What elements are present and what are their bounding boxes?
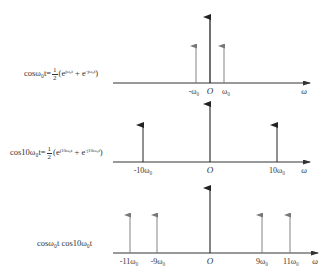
tick-label-origin: O bbox=[207, 256, 214, 266]
tick-label-neg-9w0: -9ω₀ bbox=[151, 257, 166, 266]
formula-product: cosω₀t cos10ω₀t bbox=[37, 238, 92, 248]
formula-cos-w0: cosω₀t=12(ejω₀t + e-jω₀t) bbox=[24, 67, 98, 82]
fraction-half: 12 bbox=[52, 67, 58, 82]
tick-label-origin: O bbox=[207, 165, 214, 175]
tick-label-neg-w0: -ω₀ bbox=[189, 87, 200, 96]
panel-cos-10w0 bbox=[113, 104, 310, 162]
panel-product bbox=[113, 188, 318, 253]
tick-label-pos-11w0: 11ω₀ bbox=[283, 257, 299, 266]
tick-label-pos-9w0: 9ω₀ bbox=[256, 257, 268, 266]
axis-label-omega: ω bbox=[301, 87, 307, 96]
equals-sign: = bbox=[41, 147, 46, 157]
tick-label-pos-w0: ω₀ bbox=[222, 87, 230, 96]
axis-label-omega: ω bbox=[301, 166, 307, 175]
tick-label-pos-10w0: 10ω₀ bbox=[269, 166, 285, 175]
tick-label-neg-10w0: -10ω₀ bbox=[134, 166, 153, 175]
tick-label-neg-11w0: -11ω₀ bbox=[120, 257, 138, 266]
formula-lhs: cosω₀t cos10ω₀t bbox=[37, 238, 92, 248]
formula-lhs: cos10ω₀t bbox=[10, 147, 41, 157]
panel-cos-w0 bbox=[113, 17, 310, 83]
fraction-half: 12 bbox=[47, 146, 53, 161]
spectrum-diagram bbox=[0, 0, 331, 277]
axis-label-omega: ω bbox=[312, 257, 318, 266]
equals-sign: = bbox=[46, 68, 51, 78]
tick-label-origin: O bbox=[207, 86, 214, 96]
formula-lhs: cosω₀t bbox=[24, 68, 46, 78]
formula-cos-10w0: cos10ω₀t=12(ej10ω₀t + e-j10ω₀t) bbox=[10, 146, 103, 161]
